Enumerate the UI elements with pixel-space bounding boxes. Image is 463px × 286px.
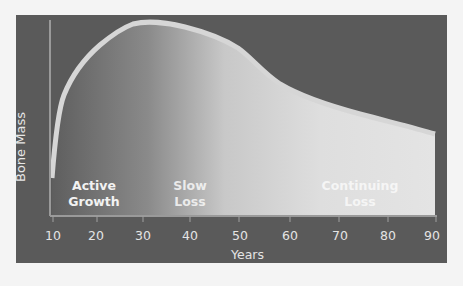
- phase-label-continuing-loss: Continuing Loss: [305, 178, 415, 210]
- phase-line: Loss: [305, 194, 415, 210]
- chart-plot: [0, 0, 463, 286]
- phase-label-slow-loss: Slow Loss: [160, 178, 220, 210]
- x-tick-label: 60: [275, 228, 305, 243]
- phase-line: Continuing: [305, 178, 415, 194]
- phase-label-active-growth: Active Growth: [62, 178, 126, 210]
- x-axis-label: Years: [231, 247, 264, 262]
- phase-line: Slow: [160, 178, 220, 194]
- x-tick-label: 30: [128, 228, 158, 243]
- x-tick-label: 90: [417, 228, 447, 243]
- x-tick-label: 10: [38, 228, 68, 243]
- y-axis-label: Bone Mass: [11, 92, 31, 202]
- x-tick-label: 40: [175, 228, 205, 243]
- x-tick-label: 80: [373, 228, 403, 243]
- phase-line: Active: [62, 178, 126, 194]
- x-tick-label: 20: [81, 228, 111, 243]
- x-tick-label: 70: [325, 228, 355, 243]
- phase-line: Loss: [160, 194, 220, 210]
- x-tick-label: 50: [225, 228, 255, 243]
- phase-line: Growth: [62, 194, 126, 210]
